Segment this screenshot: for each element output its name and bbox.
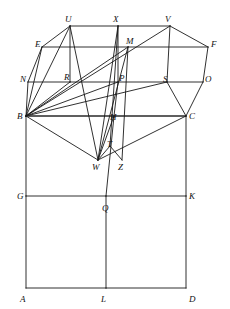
vertex-label-t: T: [107, 140, 112, 149]
vertex-label-p: P: [119, 74, 125, 83]
vertex-label-h: H: [110, 113, 117, 122]
segment-X-T: [110, 26, 118, 146]
segment-M-Z: [122, 47, 128, 160]
vertex-label-w: W: [92, 163, 100, 172]
vertex-label-r: R: [64, 73, 70, 82]
vertex-label-x: X: [113, 15, 119, 24]
vertex-label-f: F: [211, 40, 217, 49]
vertex-label-z: Z: [118, 163, 123, 172]
vertex-label-c: C: [189, 112, 195, 121]
vertex-label-g: G: [17, 192, 24, 201]
vertex-label-u: U: [65, 15, 72, 24]
vertex-label-s: S: [163, 75, 168, 84]
vertex-label-d: D: [189, 295, 196, 304]
segment-B-S: [26, 82, 167, 116]
vertex-label-n: N: [20, 75, 26, 84]
vertex-label-m: M: [126, 37, 134, 46]
segment-V-F: [170, 26, 208, 47]
segment-B-W: [26, 116, 98, 160]
vertex-label-q: Q: [102, 204, 109, 213]
segment-U-E: [42, 26, 70, 47]
segment-U-W: [70, 26, 98, 160]
vertex-label-b: B: [17, 112, 23, 121]
segment-S-C: [167, 82, 186, 116]
vertex-label-o: O: [205, 75, 212, 84]
vertex-label-a: A: [20, 295, 26, 304]
segment-layer: [26, 26, 208, 288]
vertex-label-l: L: [101, 295, 106, 304]
geometry-figure: UXVEMFNRPSOBHCTWZGQKALD: [0, 0, 230, 309]
vertex-label-k: K: [189, 192, 195, 201]
vertex-label-e: E: [35, 40, 41, 49]
vertex-label-v: V: [165, 15, 171, 24]
